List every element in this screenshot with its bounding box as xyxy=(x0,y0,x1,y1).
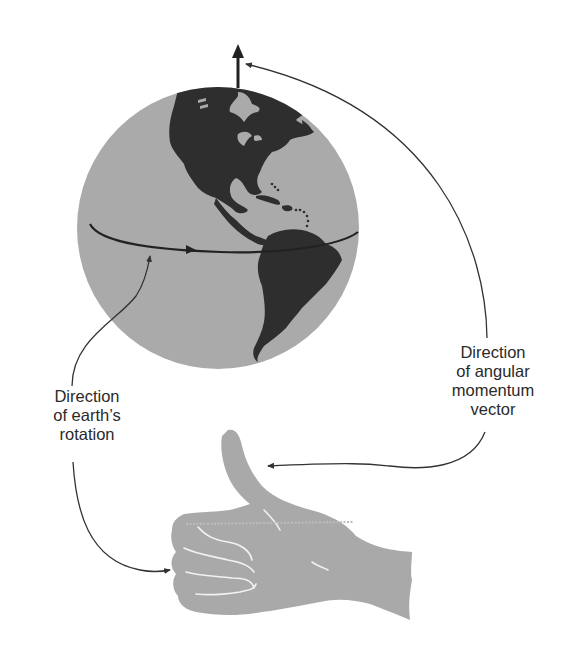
momentum-label-line-2: of angular xyxy=(428,362,558,381)
right-hand-thumbs-up xyxy=(171,430,412,620)
rotation-label-line-2: of earth’s xyxy=(22,406,152,425)
rotation-label-line-3: rotation xyxy=(22,425,152,444)
momentum-label-line-3: momentum xyxy=(428,381,558,400)
rotation-label-line-1: Direction xyxy=(22,387,152,406)
arctic-island-east xyxy=(290,90,310,103)
rotation-leader-to-fingers xyxy=(73,462,170,572)
momentum-label-line-1: Direction xyxy=(428,343,558,362)
earth-globe xyxy=(77,83,359,369)
rotation-label: Direction of earth’s rotation xyxy=(22,387,152,444)
diagram-canvas xyxy=(0,0,563,655)
momentum-leader-to-thumb xyxy=(268,432,485,468)
hand-shape xyxy=(171,430,412,620)
axis-arrowhead-icon xyxy=(232,44,244,58)
angular-momentum-label: Direction of angular momentum vector xyxy=(428,343,558,419)
momentum-label-line-4: vector xyxy=(428,400,558,419)
